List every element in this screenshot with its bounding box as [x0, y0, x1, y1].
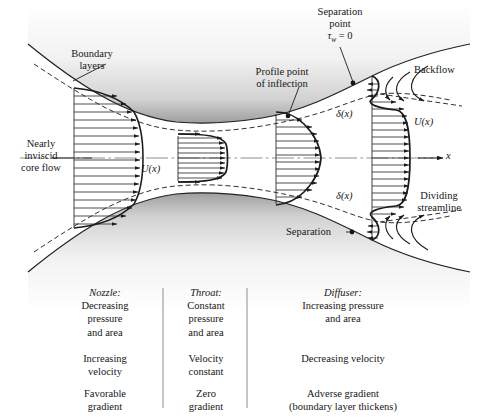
label-x-axis: x	[446, 150, 451, 162]
table-cell-throat-row1: Velocity constant	[162, 352, 250, 379]
label-backflow: Backflow	[414, 64, 455, 76]
table-heading-diffuser: Diffuser:	[250, 286, 436, 299]
table-heading-nozzle: Nozzle:	[60, 286, 150, 299]
separation-point-marker-upper	[351, 81, 356, 86]
table-cell-throat-row2: Zero gradient	[162, 387, 250, 414]
separation-shear-stress-value: τw = 0	[300, 30, 380, 46]
separation-point-marker-lower	[350, 230, 355, 235]
label-delta-lower: δ(x)	[336, 190, 353, 202]
label-profile-point-of-inflection: Profile point of inflection	[241, 66, 323, 90]
table-cell-diffuser-row1: Decreasing velocity	[250, 352, 436, 365]
table-cell-diffuser-row2: Adverse gradient (boundary layer thicken…	[250, 387, 436, 414]
label-u-inlet: U(x)	[141, 163, 160, 175]
label-u-exit: U(x)	[414, 116, 433, 128]
label-separation: Separation	[286, 226, 331, 238]
label-nearly-inviscid-core-flow: Nearly inviscid core flow	[8, 138, 74, 174]
table-cell-throat-row0: Constant pressure and area	[162, 299, 250, 339]
table-cell-nozzle-row2: Favorable gradient	[60, 387, 150, 414]
table-cell-diffuser-row0: Increasing pressure and area	[250, 299, 436, 326]
label-dividing-streamline: Dividing streamline	[404, 190, 474, 214]
table-cell-nozzle-row0: Decreasing pressure and area	[60, 299, 150, 339]
label-separation-point: Separation point τw = 0	[300, 6, 380, 46]
label-boundary-layers: Boundary layers	[58, 48, 126, 72]
table-heading-throat: Throat:	[162, 286, 250, 299]
table-cell-nozzle-row1: Increasing velocity	[60, 352, 150, 379]
label-delta-upper: δ(x)	[336, 108, 353, 120]
velocity-profile-throat	[178, 134, 228, 182]
